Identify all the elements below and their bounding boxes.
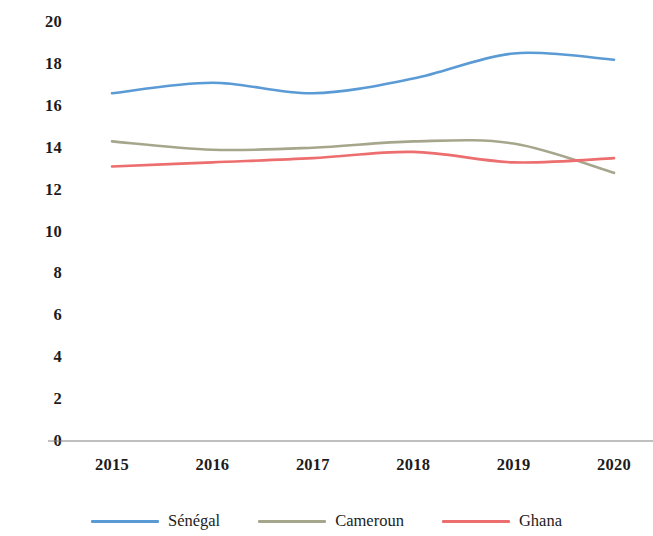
x-axis-tick-label: 2018	[368, 455, 458, 475]
plot-area	[0, 0, 653, 460]
legend-item[interactable]: Cameroun	[258, 511, 404, 531]
legend-line-swatch-icon	[91, 520, 159, 523]
x-axis-tick-label: 2016	[167, 455, 257, 475]
line-chart: 20181614121086420 2015201620172018201920…	[0, 0, 653, 536]
legend-label: Ghana	[519, 511, 562, 531]
x-axis-tick-label: 2015	[67, 455, 157, 475]
legend-line-swatch-icon	[442, 520, 510, 523]
legend-label: Sénégal	[168, 511, 220, 531]
series-line-s-n-gal	[112, 53, 614, 94]
chart-legend: SénégalCamerounGhana	[0, 506, 653, 536]
legend-item[interactable]: Sénégal	[91, 511, 220, 531]
series-line-cameroun	[112, 140, 614, 173]
legend-line-swatch-icon	[258, 520, 326, 523]
x-axis-tick-label: 2019	[469, 455, 559, 475]
x-axis-tick-label: 2020	[569, 455, 653, 475]
legend-label: Cameroun	[335, 511, 404, 531]
x-axis: 201520162017201820192020	[0, 455, 653, 481]
legend-item[interactable]: Ghana	[442, 511, 562, 531]
x-axis-tick-label: 2017	[268, 455, 358, 475]
plot-svg	[0, 0, 653, 460]
series-line-ghana	[112, 152, 614, 167]
